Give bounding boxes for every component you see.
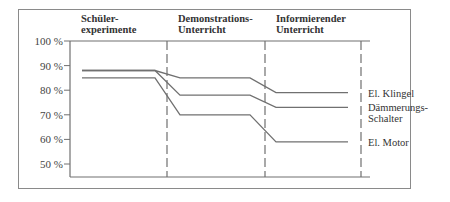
y-tick-label: 50 %: [40, 158, 63, 170]
y-tick-label: 90 %: [40, 60, 63, 72]
y-tick-label: 60 %: [40, 133, 63, 145]
phase-heading-line2: Unterricht: [276, 24, 324, 35]
y-tick-label: 70 %: [40, 109, 63, 121]
y-tick-label: 100 %: [35, 35, 63, 47]
series-label: El. Motor: [368, 137, 409, 148]
series-label: Schalter: [368, 113, 403, 124]
series-label: Dämmerungs-: [368, 102, 429, 113]
phase-heading-line1: Informierender: [276, 13, 346, 24]
phase-heading-line1: Demonstrations-: [178, 13, 253, 24]
phase-heading-line1: Schüler-: [81, 13, 119, 24]
phase-heading-line2: Unterricht: [178, 24, 226, 35]
series-line: [82, 78, 348, 142]
series-line: [82, 71, 348, 93]
series-line: [82, 71, 348, 108]
series-label: El. Klingel: [368, 88, 414, 99]
y-tick-label: 80 %: [40, 84, 63, 96]
phase-heading-line2: experimente: [81, 24, 137, 35]
line-chart: 100 %90 %80 %70 %60 %50 % Schüler-experi…: [0, 0, 450, 202]
